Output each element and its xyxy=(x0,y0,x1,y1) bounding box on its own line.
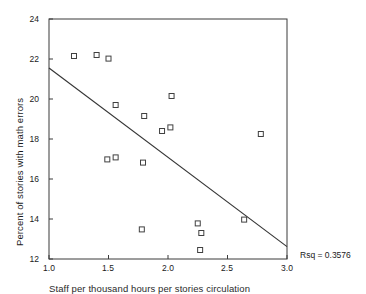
data-point xyxy=(169,94,174,99)
data-point xyxy=(71,54,76,59)
data-point xyxy=(141,160,146,165)
data-point xyxy=(198,248,203,253)
data-point xyxy=(105,157,110,162)
data-point xyxy=(242,217,247,222)
data-point xyxy=(139,227,144,232)
data-points xyxy=(71,53,263,253)
data-point xyxy=(258,132,263,137)
data-point xyxy=(199,231,204,236)
data-point xyxy=(142,114,147,119)
data-point xyxy=(160,129,165,134)
axes-frame xyxy=(49,19,287,259)
data-point xyxy=(168,125,173,130)
axis-ticks xyxy=(49,19,287,259)
data-point xyxy=(113,155,118,160)
data-point xyxy=(113,103,118,108)
data-point xyxy=(106,56,111,61)
regression-line xyxy=(49,68,287,247)
data-point xyxy=(195,221,200,226)
data-point xyxy=(94,53,99,58)
